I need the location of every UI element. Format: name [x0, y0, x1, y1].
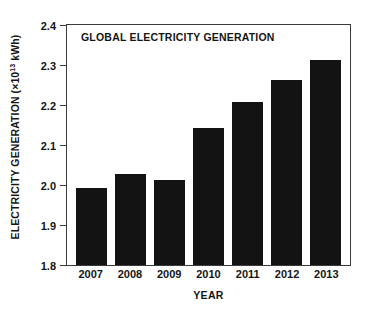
bar-slot — [150, 25, 189, 265]
y-axis-tick-label: 2.4 — [41, 20, 56, 32]
y-axis-tick-label: 2.3 — [41, 60, 56, 72]
bar-series — [67, 25, 350, 265]
y-axis-title-suffix: kWh) — [9, 35, 21, 64]
x-axis-tick-label-2008: 2008 — [110, 268, 149, 286]
y-axis-tick-label: 2.0 — [41, 180, 56, 192]
chart-figure: ELECTRICITY GENERATION (×1013 kWh) GLOBA… — [0, 0, 377, 321]
x-axis-title: YEAR — [66, 289, 351, 301]
y-axis-tick: 1.9 — [60, 225, 67, 226]
bar-slot — [306, 25, 345, 265]
x-axis-tick-label-2009: 2009 — [150, 268, 189, 286]
y-axis-title-exponent: 13 — [9, 64, 16, 72]
bar-slot — [111, 25, 150, 265]
bar-slot — [72, 25, 111, 265]
bar-2008 — [115, 174, 145, 265]
x-axis-tick-label-2007: 2007 — [71, 268, 110, 286]
y-axis-title-container: ELECTRICITY GENERATION (×1013 kWh) — [0, 0, 30, 274]
bar-2009 — [154, 180, 184, 265]
bar-2011 — [232, 102, 262, 265]
y-axis-tick-label: 2.2 — [41, 100, 56, 112]
x-axis-tick-label-2010: 2010 — [189, 268, 228, 286]
bar-2010 — [193, 128, 223, 265]
y-axis-tick-label: 1.9 — [41, 220, 56, 232]
y-axis-tick-label: 1.8 — [41, 260, 56, 272]
bar-2007 — [76, 188, 106, 265]
y-axis-tick: 2.0 — [60, 185, 67, 186]
y-axis-tick: 2.1 — [60, 145, 67, 146]
y-axis-tick-label: 2.1 — [41, 140, 56, 152]
y-axis-tick: 2.4 — [60, 25, 67, 26]
y-axis-tick: 2.2 — [60, 105, 67, 106]
y-axis-title: ELECTRICITY GENERATION (×1013 kWh) — [9, 35, 21, 240]
bar-slot — [189, 25, 228, 265]
x-axis-tick-labels: 2007200820092010201120122013 — [66, 268, 351, 286]
y-axis-tick: 2.3 — [60, 65, 67, 66]
bar-2013 — [310, 60, 340, 265]
bar-slot — [267, 25, 306, 265]
x-axis-tick-label-2012: 2012 — [267, 268, 306, 286]
y-axis-title-prefix: ELECTRICITY GENERATION (×10 — [9, 72, 21, 240]
x-axis-tick-label-2013: 2013 — [307, 268, 346, 286]
y-axis-tick: 1.8 — [60, 265, 67, 266]
x-axis-tick-label-2011: 2011 — [228, 268, 267, 286]
plot-area: GLOBAL ELECTRICITY GENERATION 2.42.32.22… — [66, 24, 351, 266]
bar-2012 — [271, 80, 301, 265]
bar-slot — [228, 25, 267, 265]
